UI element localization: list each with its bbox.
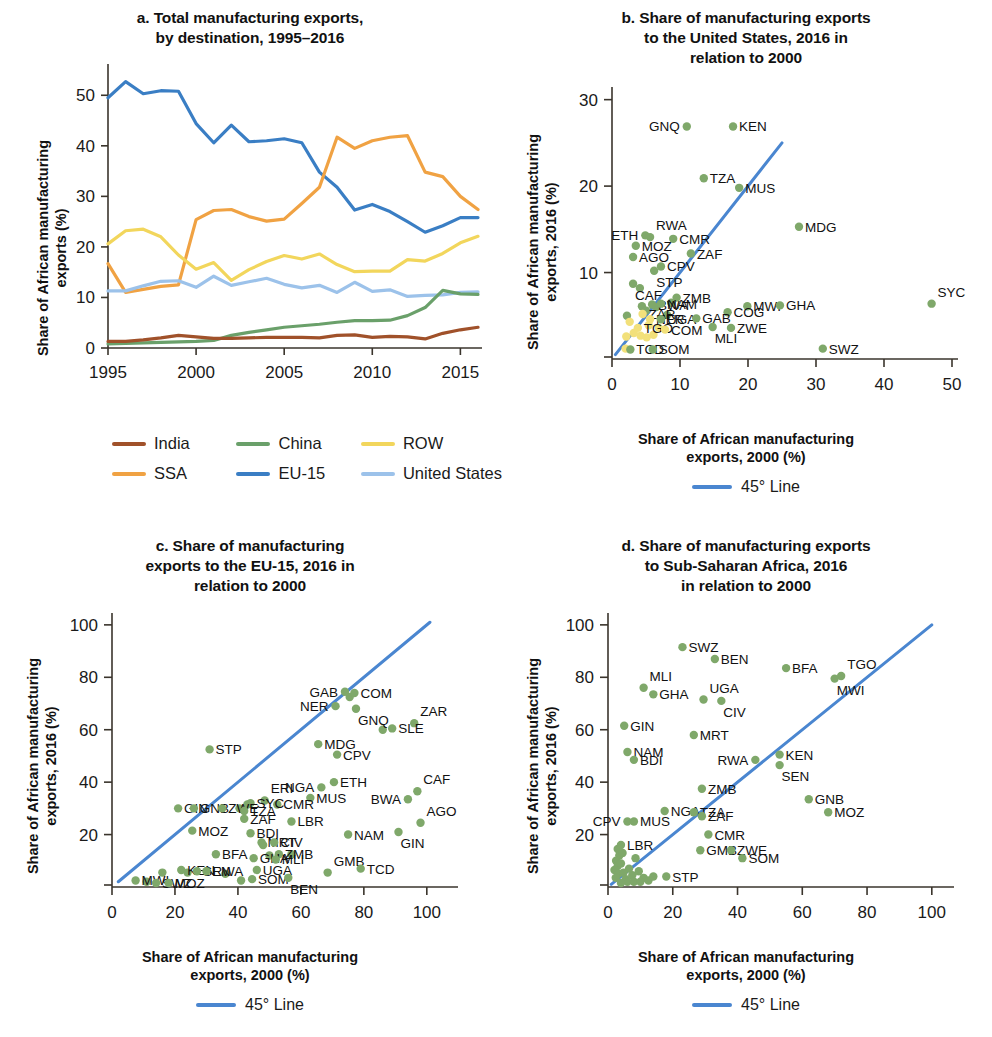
scatter-point-gmb	[696, 847, 704, 855]
scatter-label-ben: BEN	[290, 882, 318, 897]
panel-d-ytick: 40	[575, 774, 594, 793]
panel-d-plot: 20406080100020406080100SWZBENBFATGOMWIML…	[500, 595, 992, 925]
scatter-point-ken	[177, 866, 185, 874]
scatter-label-ken: KEN	[786, 748, 814, 763]
scatter-label-mus: MUS	[316, 791, 346, 806]
scatter-label-tgo: TGO	[847, 657, 876, 672]
scatter-label-syc: SYC	[938, 285, 966, 300]
panel-b-scatter: b. Share of manufacturing exports to the…	[500, 0, 992, 510]
scatter-label-mdg: MDG	[805, 220, 837, 235]
scatter-label-tcd: TCD	[367, 862, 395, 877]
scatter-point-nam	[344, 831, 352, 839]
panel-a-xtick: 2015	[441, 363, 479, 382]
panel-a-ytick: 50	[76, 86, 95, 105]
legend-item-china[interactable]: China	[236, 434, 360, 453]
legend-item-ssa[interactable]: SSA	[112, 464, 236, 483]
panel-b-xlabel: Share of African manufacturing exports, …	[546, 430, 946, 466]
panel-d-scatter: d. Share of manufacturing exports to Sub…	[500, 518, 992, 1037]
scatter-point-mdg	[795, 223, 803, 231]
panel-c-title: c. Share of manufacturing exports to the…	[0, 518, 500, 595]
scatter-point-civ	[717, 697, 725, 705]
panel-c-xtick: 60	[291, 903, 310, 922]
scatter-label-gha: GHA	[786, 299, 815, 314]
legend-label-united-states: United States	[403, 464, 502, 483]
scatter-point-gha	[649, 691, 657, 699]
scatter-label-mli: MLI	[715, 331, 738, 346]
scatter-label-cpv: CPV	[667, 260, 695, 275]
scatter-point-rwa	[751, 756, 759, 764]
panel-d-ytick: 20	[575, 826, 594, 845]
scatter-point-tcd	[626, 346, 634, 354]
panel-a-title-line1: a. Total manufacturing exports,	[137, 9, 364, 26]
legend-label-row: ROW	[403, 434, 443, 453]
scatter-label-ner: NER	[300, 700, 329, 715]
scatter-point	[617, 860, 625, 868]
scatter-label-civ: CIV	[723, 705, 746, 720]
scatter-label-com: COM	[360, 687, 392, 702]
panel-a-xtick: 2000	[177, 363, 215, 382]
scatter-point-zmb	[698, 785, 706, 793]
scatter-point-sen	[193, 868, 201, 876]
panel-a-ylabel: Share of African manufacturing exports (…	[34, 98, 70, 398]
panel-b-xtick: 50	[943, 375, 962, 394]
panel-b-ytick: 20	[579, 178, 598, 197]
scatter-label-cpv: CPV	[343, 748, 371, 763]
scatter-point	[618, 849, 626, 857]
panel-a-ytick: 40	[76, 136, 95, 155]
panel-d-legend-45line[interactable]: 45° Line	[546, 996, 946, 1014]
scatter-point-zwe	[727, 847, 735, 855]
scatter-point-sle	[388, 725, 396, 733]
scatter-label-zmb: ZMB	[708, 782, 737, 797]
scatter-label-moz: MOZ	[198, 824, 228, 839]
scatter-label-cmr: CMR	[714, 828, 745, 843]
panel-a-ytick: 10	[76, 288, 95, 307]
line45-swatch-icon	[692, 1003, 732, 1006]
panel-d-xtick: 0	[603, 903, 612, 922]
scatter-point-gin	[174, 805, 182, 813]
panel-a-title: a. Total manufacturing exports, by desti…	[0, 0, 500, 48]
scatter-label-ago: AGO	[427, 804, 457, 819]
scatter-point-gnq	[683, 123, 691, 131]
scatter-point-gnq	[352, 705, 360, 713]
scatter-point-gmb	[323, 869, 331, 877]
scatter-label-tza: TZA	[710, 172, 736, 187]
scatter-label-mus: MUS	[745, 181, 775, 196]
scatter-label-caf: CAF	[423, 773, 450, 788]
panel-a-plot: 0102030405019952000200520102015	[0, 48, 500, 408]
legend-label-ssa: SSA	[154, 464, 187, 483]
scatter-point	[636, 878, 644, 886]
scatter-point-caf	[629, 280, 637, 288]
scatter-label-stp: STP	[672, 870, 698, 885]
scatter-label-gha: GHA	[659, 688, 688, 703]
scatter-point-tza	[240, 807, 248, 815]
legend-item-row[interactable]: ROW	[361, 434, 502, 453]
panel-d-ylabel: Share of African manufacturing exports, …	[524, 616, 560, 916]
series-line-india	[108, 327, 478, 341]
panel-d-xlabel: Share of African manufacturing exports, …	[546, 948, 946, 984]
scatter-point-stp	[205, 746, 213, 754]
scatter-point-uga	[699, 696, 707, 704]
scatter-label-zwe: ZWE	[737, 321, 767, 336]
legend-item-india[interactable]: India	[112, 434, 236, 453]
scatter-point-stp	[662, 873, 670, 881]
scatter-point-tza	[690, 809, 698, 817]
scatter-point-moz	[632, 242, 640, 250]
panel-b-svg: 10203001020304050GNQKENTZAMUSMDGRWAETHCM…	[500, 67, 992, 397]
scatter-label-swz: SWZ	[829, 342, 859, 357]
panel-b-legend-45line[interactable]: 45° Line	[546, 478, 946, 496]
panel-d-svg: 20406080100020406080100SWZBENBFATGOMWIML…	[500, 595, 992, 925]
scatter-label-sle: SLE	[398, 722, 424, 737]
legend-item-united-states[interactable]: United States	[361, 464, 502, 483]
panel-c-legend-45line[interactable]: 45° Line	[50, 996, 450, 1014]
legend-item-eu15[interactable]: EU-15	[236, 464, 360, 483]
scatter-point-mwi	[830, 675, 838, 683]
scatter-label-moz: MOZ	[175, 877, 205, 892]
panel-c-ylabel: Share of African manufacturing exports, …	[24, 616, 60, 916]
scatter-point-mdg	[314, 740, 322, 748]
scatter-point-cpv	[333, 751, 341, 759]
scatter-point-caf	[413, 788, 421, 796]
scatter-label-rwa: RWA	[212, 865, 243, 880]
scatter-point-gnb	[190, 805, 198, 813]
scatter-label-zaf: ZAF	[708, 810, 734, 825]
scatter-point-gha	[776, 302, 784, 310]
